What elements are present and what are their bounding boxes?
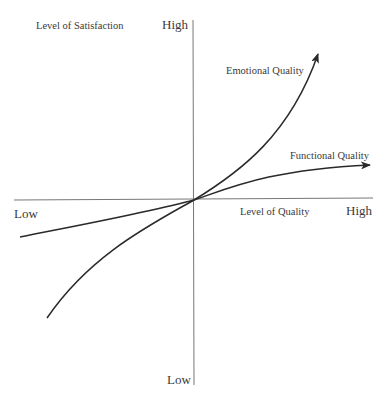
y-axis-title: Level of Satisfaction bbox=[36, 20, 123, 31]
diagram-canvas bbox=[0, 0, 390, 398]
functional-quality-label: Functional Quality bbox=[290, 150, 369, 161]
x-axis-low-label: Low bbox=[14, 206, 38, 222]
y-axis bbox=[193, 20, 194, 385]
functional-quality-curve bbox=[20, 165, 370, 237]
emotional-quality-curve bbox=[47, 54, 318, 318]
emotional-quality-label: Emotional Quality bbox=[226, 65, 304, 76]
y-axis-low-label: Low bbox=[167, 372, 191, 388]
x-axis-title: Level of Quality bbox=[240, 206, 309, 217]
x-axis-high-label: High bbox=[346, 203, 372, 219]
y-axis-high-label: High bbox=[162, 17, 188, 33]
